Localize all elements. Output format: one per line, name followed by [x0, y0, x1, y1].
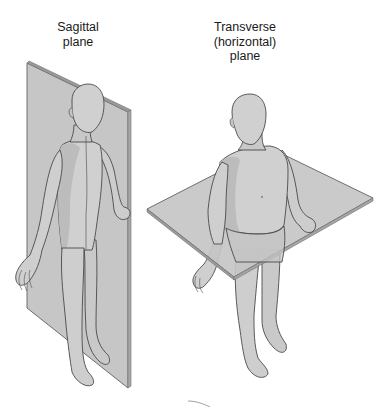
- diagram-artwork: [0, 0, 391, 407]
- body-planes-diagram: Sagittal plane Transverse (horizontal) p…: [0, 0, 391, 407]
- transverse-figure: [147, 94, 373, 407]
- sagittal-figure: [16, 61, 131, 388]
- stray-mark: [188, 401, 210, 407]
